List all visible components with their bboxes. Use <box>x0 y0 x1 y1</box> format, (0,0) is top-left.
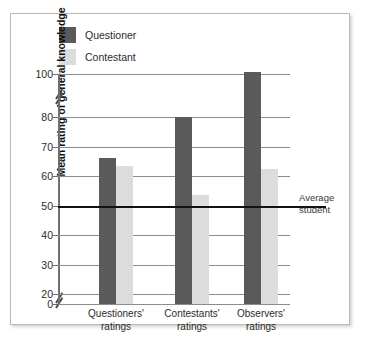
annotation-line-2: student <box>299 204 334 216</box>
x-label-questioners-line2: ratings <box>88 321 144 334</box>
legend-item-questioner: Questioner <box>59 26 136 43</box>
x-label-observers-line2: ratings <box>237 321 285 334</box>
x-label-questioners: Questioners' ratings <box>88 308 144 333</box>
legend-label-questioner: Questioner <box>85 29 136 41</box>
average-student-reference-line <box>58 206 326 209</box>
bar-group-contestants <box>175 117 209 305</box>
bar-group-observers <box>244 72 278 304</box>
bar-contestant-questioners <box>116 166 133 304</box>
chart-legend: Questioner Contestant <box>59 26 136 70</box>
chart-figure: Questioner Contestant Mean rating of gen… <box>10 13 350 325</box>
y-axis-ticks <box>11 74 58 304</box>
x-label-contestants-line1: Contestants' <box>164 308 219 321</box>
x-label-observers-line1: Observers' <box>237 308 285 321</box>
legend-item-contestant: Contestant <box>59 48 136 65</box>
bar-contestant-observers <box>261 169 278 304</box>
average-student-annotation: Average student <box>299 192 334 216</box>
gridline-0 <box>58 304 290 305</box>
bar-questioner-contestants <box>175 117 192 305</box>
x-label-contestants: Contestants' ratings <box>164 308 219 333</box>
bar-contestant-contestants <box>192 195 209 304</box>
x-label-observers: Observers' ratings <box>237 308 285 333</box>
legend-label-contestant: Contestant <box>85 51 136 63</box>
plot-area <box>58 74 290 304</box>
bar-questioner-observers <box>244 72 261 304</box>
bar-questioner-questioners <box>99 158 116 305</box>
bar-group-questioners <box>99 158 133 305</box>
x-label-contestants-line2: ratings <box>164 321 219 334</box>
x-label-questioners-line1: Questioners' <box>88 308 144 321</box>
annotation-line-1: Average <box>299 192 334 204</box>
